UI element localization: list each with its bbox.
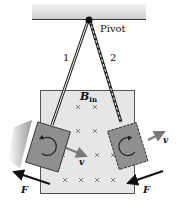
pivot-label: Pivot <box>100 23 126 34</box>
pendulum-diagram: Bin Pivot 1 2 v v F F <box>0 0 182 204</box>
rod-1-label: 1 <box>63 52 69 63</box>
velocity-label-left: v <box>79 157 85 167</box>
force-label-right: F <box>142 184 151 195</box>
diagram-canvas: Bin Pivot 1 2 v v F F <box>0 0 182 204</box>
velocity-arrow-right <box>148 132 164 140</box>
velocity-label-right: v <box>163 135 169 145</box>
force-label-left: F <box>20 184 29 195</box>
rod-2-label: 2 <box>110 52 116 63</box>
pivot-point <box>86 17 93 24</box>
